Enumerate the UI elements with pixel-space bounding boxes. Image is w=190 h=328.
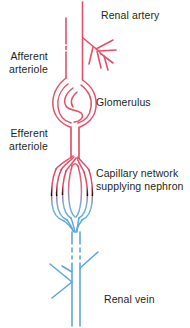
renal-vein-tributary-right xyxy=(80,252,98,268)
capillary-loop-4 xyxy=(69,166,75,217)
label-capillary-network: Capillary network supplying nephron xyxy=(96,167,184,192)
glomerulus-coil-right xyxy=(78,85,91,123)
capillary-feeder-1 xyxy=(56,156,73,169)
glomerulus-inner-arc xyxy=(71,92,77,107)
capillary-loop-apex xyxy=(72,164,78,166)
renal-artery-branch-1 xyxy=(96,40,113,49)
renal-artery-branch-3 xyxy=(100,53,113,63)
renal-artery-branch-5 xyxy=(89,47,93,64)
label-renal-vein: Renal vein xyxy=(104,293,155,306)
label-glomerulus: Glomerulus xyxy=(96,96,151,109)
label-renal-artery: Renal artery xyxy=(101,9,159,22)
glomerulus-group xyxy=(53,78,96,127)
capillary-network-group xyxy=(52,156,93,221)
renal-circulation-diagram: Renal artery Afferent arteriole Glomerul… xyxy=(0,0,190,328)
label-efferent-arteriole: Efferent arteriole xyxy=(9,127,48,152)
renal-vein-group xyxy=(50,232,98,326)
capillary-loop-5 xyxy=(76,166,81,217)
renal-vein-tributary-left-lower xyxy=(52,282,72,298)
efferent-arteriole-group xyxy=(71,127,79,158)
venule-convergence-group xyxy=(64,218,82,232)
glomerulus-core-loop xyxy=(65,88,83,122)
label-afferent-arteriole: Afferent arteriole xyxy=(9,50,48,75)
renal-artery-branch-2 xyxy=(99,50,116,51)
renal-vein-tributary-left-upper xyxy=(50,264,72,282)
renal-vein-tributary-stub xyxy=(62,266,72,272)
